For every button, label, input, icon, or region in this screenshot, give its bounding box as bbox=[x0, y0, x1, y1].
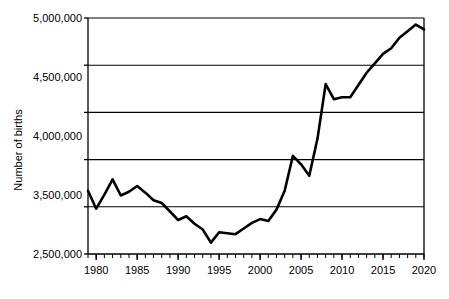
y-tick-label: 5,000,000 bbox=[33, 12, 82, 24]
y-tick-label: 3,500,000 bbox=[33, 189, 82, 201]
y-tick-label: 4,000,000 bbox=[33, 130, 82, 142]
x-tick-label: 2010 bbox=[330, 264, 354, 276]
x-tick-label: 1990 bbox=[166, 264, 190, 276]
chart-canvas: Number of births 5,000,000 4,500,000 4,0… bbox=[0, 0, 449, 299]
y-axis-title-label: Number of births bbox=[12, 109, 24, 191]
x-tick-label: 1980 bbox=[84, 264, 108, 276]
y-axis-title: Number of births bbox=[12, 109, 24, 191]
x-tick-label: 2020 bbox=[412, 264, 436, 276]
births-line-chart: Number of births 5,000,000 4,500,000 4,0… bbox=[0, 0, 449, 299]
y-tick-label: 2,500,000 bbox=[33, 248, 82, 260]
x-tick-label: 2000 bbox=[248, 264, 272, 276]
x-axis-tick-labels: 198019851990199520002005201020152020 bbox=[84, 264, 436, 276]
x-tick-label: 1985 bbox=[125, 264, 149, 276]
x-tick-label: 2005 bbox=[289, 264, 313, 276]
x-tick-label: 2015 bbox=[371, 264, 395, 276]
x-tick-label: 1995 bbox=[207, 264, 231, 276]
y-tick-label: 4,500,000 bbox=[33, 71, 82, 83]
